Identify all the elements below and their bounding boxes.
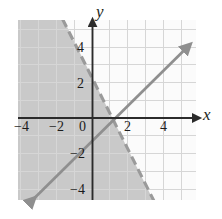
x-tick-label-4: 4	[160, 120, 167, 134]
y-tick-label-2: 2	[77, 77, 84, 91]
x-axis-label: x	[203, 106, 211, 123]
x-tick-label-neg4: −4	[14, 120, 29, 134]
y-tick-label-neg2: −2	[70, 147, 85, 161]
x-tick-label-2: 2	[124, 120, 131, 134]
y-tick-label-neg4: −4	[70, 183, 85, 197]
y-axis-label: y	[96, 3, 104, 20]
y-tick-label-4: 4	[77, 41, 84, 55]
coordinate-plane-graph	[0, 0, 222, 219]
origin-label: 0	[79, 120, 86, 134]
x-tick-label-neg2: −2	[49, 120, 64, 134]
graph-figure: y x −4 −2 2 4 0 4 2 −2 −4	[0, 0, 222, 219]
